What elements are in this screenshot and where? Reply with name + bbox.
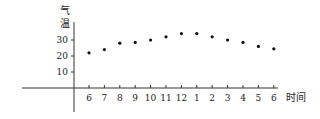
x-tick-label: 8 [117, 94, 123, 103]
x-tick-label: 1 [194, 94, 200, 103]
y-tick-10: 10 [48, 68, 68, 77]
x-label: 时间 [286, 93, 306, 103]
data-points [87, 32, 275, 54]
x-tick-label: 5 [256, 94, 262, 103]
y-label-top: 气 [60, 6, 70, 16]
x-tick-label: 3 [225, 94, 231, 103]
x-tick-label: 6 [271, 94, 277, 103]
y-label-bottom: 温 [60, 19, 70, 29]
x-tick-label: 12 [176, 94, 187, 103]
x-tick-label: 4 [240, 94, 246, 103]
x-tick-label: 2 [209, 94, 215, 103]
x-tick-label: 7 [102, 94, 108, 103]
x-tick-label: 9 [132, 94, 138, 103]
x-tick-label: 10 [145, 94, 156, 103]
x-tick-label: 6 [86, 94, 92, 103]
y-tick-30: 30 [48, 36, 68, 45]
x-tick-label: 11 [160, 94, 171, 103]
y-tick-20: 20 [48, 52, 68, 61]
